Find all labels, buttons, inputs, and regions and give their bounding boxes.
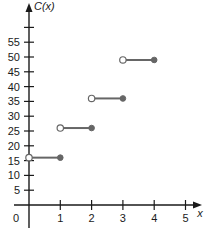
- y-tick-label: 20: [8, 140, 20, 152]
- y-tick-label: 40: [8, 81, 20, 93]
- open-endpoint-icon: [88, 95, 94, 101]
- y-tick-label: 25: [8, 125, 20, 137]
- x-tick-label: 0: [13, 212, 19, 224]
- open-endpoint-icon: [120, 57, 126, 63]
- x-tick-label: 2: [89, 212, 95, 224]
- open-endpoint-icon: [57, 125, 63, 131]
- axis-labels: 510152025303540455055012345xC(x): [8, 0, 204, 224]
- x-tick-label: 1: [57, 212, 63, 224]
- step-function-chart: 510152025303540455055012345xC(x): [0, 0, 208, 237]
- x-tick-label: 4: [151, 212, 157, 224]
- axes: [14, 3, 202, 228]
- y-tick-label: 15: [8, 155, 20, 167]
- closed-endpoint-icon: [151, 57, 157, 63]
- y-tick-label: 5: [14, 184, 20, 196]
- y-tick-label: 45: [8, 66, 20, 78]
- y-tick-label: 30: [8, 110, 20, 122]
- x-axis-title: x: [196, 207, 203, 219]
- y-axis-arrow-icon: [26, 3, 33, 12]
- x-tick-label: 5: [182, 212, 188, 224]
- closed-endpoint-icon: [58, 155, 64, 161]
- y-tick-label: 10: [8, 169, 20, 181]
- y-axis-title: C(x): [34, 0, 55, 12]
- closed-endpoint-icon: [120, 96, 126, 102]
- y-tick-label: 50: [8, 51, 20, 63]
- open-endpoint-icon: [26, 154, 32, 160]
- y-tick-label: 35: [8, 95, 20, 107]
- x-tick-label: 3: [120, 212, 126, 224]
- y-tick-label: 55: [8, 36, 20, 48]
- step-segments: [26, 57, 157, 161]
- closed-endpoint-icon: [89, 125, 95, 131]
